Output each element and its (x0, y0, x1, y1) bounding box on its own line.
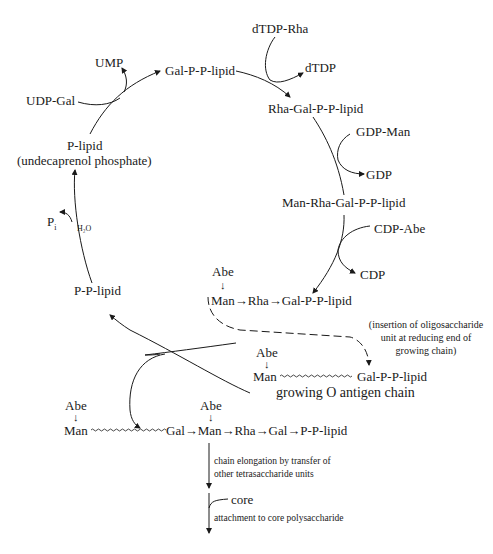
ump-label: UMP (95, 55, 123, 70)
gdp-label: GDP (366, 167, 392, 182)
tetrasaccharide-chain: Man→Rha→Gal-P-P-lipid (211, 293, 352, 308)
undecaprenol-phosphate-note: (undecaprenol phosphate) (17, 153, 152, 168)
pp-lipid-label: P-P-lipid (74, 283, 121, 298)
insertion-note: (insertion of oligosaccharide unit at re… (356, 318, 493, 357)
elongated-chain-man: Man (64, 423, 88, 438)
growing-chain-man: Man (253, 369, 277, 384)
man-rha-gal-pp-lipid-label: Man-Rha-Gal-P-P-lipid (282, 195, 405, 210)
elongated-chain-rest: Gal→Man→Rha→Gal→P-P-lipid (166, 423, 347, 438)
cdp-label: CDP (360, 267, 385, 282)
core-label: core (231, 492, 253, 507)
udp-gal-label: UDP-Gal (26, 93, 75, 108)
tetrasaccharide-abe: Abe (212, 264, 234, 279)
attachment-step-label: attachment to core polysaccharide (214, 512, 344, 525)
gdp-man-label: GDP-Man (356, 124, 410, 139)
elongation-step-label: chain elongation by transfer of other te… (214, 455, 331, 481)
dtdp-rha-label: dTDP-Rha (252, 21, 308, 36)
rha-gal-pp-lipid-label: Rha-Gal-P-P-lipid (268, 101, 363, 116)
p-lipid-label: P-lipid (67, 138, 102, 153)
insertion-note-line: (insertion of oligosaccharide (356, 318, 493, 331)
dtdp-label: dTDP (305, 60, 336, 75)
insertion-note-line: growing chain) (356, 344, 493, 357)
cdp-abe-label: CDP-Abe (374, 221, 425, 236)
h2o-label: H₂O (77, 224, 91, 233)
elongation-line: chain elongation by transfer of (214, 455, 331, 468)
gal-pp-lipid-label: Gal-P-P-lipid (165, 63, 235, 78)
tetrasaccharide-down-arrow: ↓ (220, 278, 226, 293)
growing-chain-gal-pp-lipid: Gal-P-P-lipid (357, 369, 427, 384)
insertion-note-line: unit at reducing end of (356, 331, 493, 344)
growing-chain-caption: growing O antigen chain (276, 385, 415, 400)
elongation-line: other tetrasaccharide units (214, 468, 331, 481)
pi-subscript: i (54, 223, 56, 232)
pi-label: Pi (47, 214, 56, 235)
